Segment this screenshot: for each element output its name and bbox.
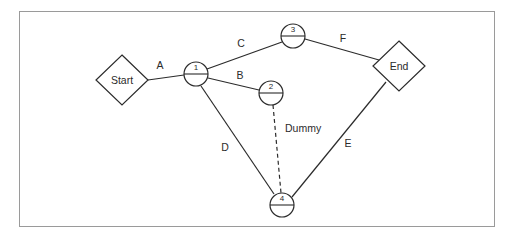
edge-group (148, 39, 386, 197)
terminal-start[interactable]: Start (96, 55, 148, 105)
terminal-end[interactable]: End (373, 41, 425, 91)
edge-line-a (148, 75, 184, 80)
edge-label-c: C (237, 37, 245, 49)
node-2-number: 2 (269, 82, 274, 91)
node-4-number: 4 (280, 194, 285, 203)
end-label: End (390, 60, 409, 72)
edge-label-a: A (156, 59, 163, 71)
edge-line-e (292, 82, 386, 197)
edge-line-dummy (273, 105, 281, 193)
edge-label-dummy: Dummy (285, 122, 322, 134)
edge-label-e: E (344, 137, 351, 149)
edge-label-f: F (340, 32, 346, 44)
node-1-number: 1 (194, 63, 199, 72)
node-3-number: 3 (291, 25, 296, 34)
edge-label-d: D (221, 141, 229, 153)
edge-label-b: B (236, 69, 243, 81)
node-1[interactable]: 1 (184, 62, 208, 86)
node-3[interactable]: 3 (281, 24, 305, 48)
edge-label-group: A C B F D E Dummy (156, 32, 351, 153)
node-4[interactable]: 4 (270, 193, 294, 217)
node-2[interactable]: 2 (259, 81, 283, 105)
start-label: Start (111, 74, 133, 86)
network-diagram-canvas: Start End 1 2 3 4 (0, 0, 514, 240)
diagram-page: Start End 1 2 3 4 (0, 0, 514, 240)
edge-line-b (208, 78, 259, 90)
